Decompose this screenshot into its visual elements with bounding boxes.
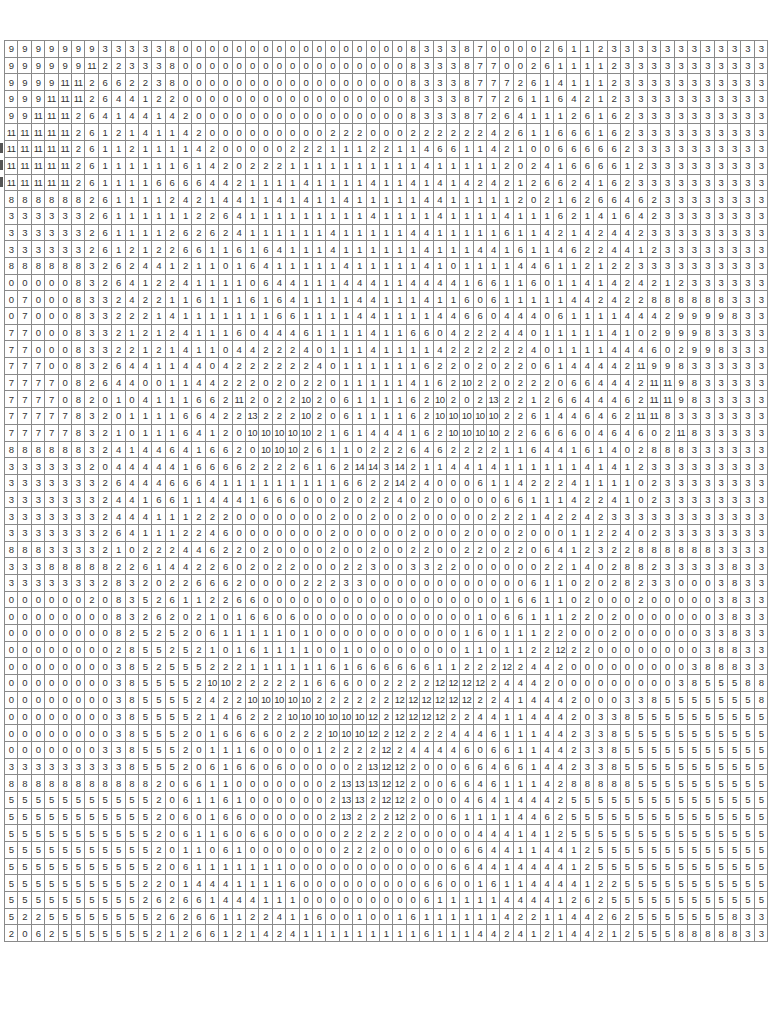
grid-cell[interactable]: 0: [446, 575, 459, 592]
grid-cell[interactable]: 2: [647, 274, 660, 291]
grid-cell[interactable]: 1: [420, 374, 433, 391]
grid-cell[interactable]: 3: [18, 491, 31, 508]
grid-cell[interactable]: 3: [18, 524, 31, 541]
grid-cell[interactable]: 7: [18, 408, 31, 425]
grid-cell[interactable]: 0: [205, 74, 218, 91]
grid-cell[interactable]: 3: [98, 291, 111, 308]
grid-cell[interactable]: 3: [45, 508, 58, 525]
grid-cell[interactable]: 2: [232, 358, 245, 375]
grid-cell[interactable]: 0: [353, 41, 366, 58]
grid-cell[interactable]: 0: [219, 608, 232, 625]
grid-cell[interactable]: 6: [420, 925, 433, 942]
grid-cell[interactable]: 4: [487, 825, 500, 842]
grid-cell[interactable]: 8: [460, 91, 473, 108]
grid-cell[interactable]: 3: [420, 74, 433, 91]
grid-cell[interactable]: 3: [661, 107, 674, 124]
grid-cell[interactable]: 1: [165, 424, 178, 441]
grid-cell[interactable]: 2: [45, 925, 58, 942]
grid-cell[interactable]: 3: [687, 74, 700, 91]
grid-cell[interactable]: 1: [527, 625, 540, 642]
grid-cell[interactable]: 0: [312, 608, 325, 625]
grid-cell[interactable]: 5: [634, 842, 647, 859]
grid-cell[interactable]: 3: [728, 458, 741, 475]
grid-cell[interactable]: 0: [85, 725, 98, 742]
grid-cell[interactable]: 1: [433, 908, 446, 925]
grid-cell[interactable]: 5: [152, 758, 165, 775]
grid-cell[interactable]: 8: [728, 625, 741, 642]
grid-cell[interactable]: 0: [446, 474, 459, 491]
grid-cell[interactable]: 0: [272, 608, 285, 625]
grid-cell[interactable]: 1: [205, 708, 218, 725]
grid-cell[interactable]: 9: [661, 324, 674, 341]
grid-cell[interactable]: 3: [674, 508, 687, 525]
grid-cell[interactable]: 6: [567, 374, 580, 391]
grid-cell[interactable]: 9: [71, 57, 84, 74]
grid-cell[interactable]: 5: [714, 758, 727, 775]
grid-cell[interactable]: 1: [165, 391, 178, 408]
grid-cell[interactable]: 3: [728, 524, 741, 541]
grid-cell[interactable]: 8: [728, 658, 741, 675]
grid-cell[interactable]: 4: [527, 858, 540, 875]
grid-cell[interactable]: 6: [219, 808, 232, 825]
grid-cell[interactable]: 3: [446, 41, 459, 58]
grid-cell[interactable]: 3: [754, 458, 767, 475]
grid-cell[interactable]: 2: [286, 358, 299, 375]
grid-cell[interactable]: 3: [754, 391, 767, 408]
grid-cell[interactable]: 2: [165, 224, 178, 241]
grid-cell[interactable]: 0: [58, 725, 71, 742]
grid-cell[interactable]: 2: [232, 408, 245, 425]
grid-cell[interactable]: 4: [219, 491, 232, 508]
grid-cell[interactable]: 0: [272, 74, 285, 91]
grid-cell[interactable]: 3: [687, 524, 700, 541]
grid-cell[interactable]: 2: [393, 741, 406, 758]
grid-cell[interactable]: 3: [728, 91, 741, 108]
grid-cell[interactable]: 10: [286, 441, 299, 458]
grid-cell[interactable]: 5: [580, 825, 593, 842]
grid-cell[interactable]: 5: [754, 892, 767, 909]
grid-cell[interactable]: 3: [714, 491, 727, 508]
grid-cell[interactable]: 0: [299, 875, 312, 892]
grid-cell[interactable]: 2: [366, 842, 379, 859]
grid-cell[interactable]: 3: [714, 324, 727, 341]
grid-cell[interactable]: 2: [379, 675, 392, 692]
grid-cell[interactable]: 6: [205, 541, 218, 558]
grid-cell[interactable]: 1: [500, 808, 513, 825]
grid-cell[interactable]: 0: [487, 641, 500, 658]
grid-cell[interactable]: 3: [420, 107, 433, 124]
grid-cell[interactable]: 11: [31, 157, 44, 174]
grid-cell[interactable]: 0: [487, 558, 500, 575]
grid-cell[interactable]: 1: [138, 524, 151, 541]
grid-cell[interactable]: 3: [661, 191, 674, 208]
grid-cell[interactable]: 3: [714, 224, 727, 241]
grid-cell[interactable]: 0: [661, 591, 674, 608]
grid-cell[interactable]: 6: [339, 408, 352, 425]
grid-cell[interactable]: 6: [112, 274, 125, 291]
grid-cell[interactable]: 0: [192, 91, 205, 108]
grid-cell[interactable]: 5: [687, 875, 700, 892]
grid-cell[interactable]: 1: [179, 875, 192, 892]
grid-cell[interactable]: 5: [701, 741, 714, 758]
grid-cell[interactable]: 2: [513, 374, 526, 391]
grid-cell[interactable]: 1: [138, 491, 151, 508]
grid-cell[interactable]: 0: [85, 641, 98, 658]
grid-cell[interactable]: 3: [754, 424, 767, 441]
grid-cell[interactable]: 0: [45, 591, 58, 608]
grid-cell[interactable]: 3: [674, 57, 687, 74]
grid-cell[interactable]: 4: [513, 858, 526, 875]
grid-cell[interactable]: 2: [286, 341, 299, 358]
grid-cell[interactable]: 1: [205, 341, 218, 358]
grid-cell[interactable]: 6: [487, 875, 500, 892]
grid-cell[interactable]: 0: [446, 491, 459, 508]
grid-cell[interactable]: 3: [687, 658, 700, 675]
grid-cell[interactable]: 3: [754, 141, 767, 158]
grid-cell[interactable]: 6: [580, 157, 593, 174]
grid-cell[interactable]: 0: [567, 591, 580, 608]
grid-cell[interactable]: 2: [406, 808, 419, 825]
grid-cell[interactable]: 2: [580, 91, 593, 108]
grid-cell[interactable]: 4: [446, 725, 459, 742]
grid-cell[interactable]: 4: [286, 291, 299, 308]
grid-cell[interactable]: 4: [420, 257, 433, 274]
grid-cell[interactable]: 4: [192, 374, 205, 391]
grid-cell[interactable]: 1: [379, 224, 392, 241]
grid-cell[interactable]: 1: [554, 341, 567, 358]
